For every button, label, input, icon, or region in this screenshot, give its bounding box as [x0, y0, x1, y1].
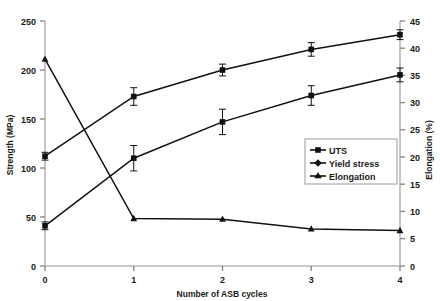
right-tick-label-25: 25	[410, 125, 420, 135]
right-tick-label-20: 20	[410, 153, 420, 163]
bottom-tick-label-4: 4	[397, 275, 402, 285]
right-axis-title: Elongation (%)	[424, 120, 434, 180]
right-tick-label-5: 5	[410, 234, 415, 244]
left-tick-label-100: 100	[21, 164, 36, 174]
legend-label-elongation: Elongation	[329, 172, 376, 182]
right-tick-label-30: 30	[410, 98, 420, 108]
right-tick-label-15: 15	[410, 180, 420, 190]
bottom-axis-title: Number of ASB cycles	[177, 289, 268, 299]
left-tick-label-200: 200	[21, 66, 36, 76]
right-tick-label-35: 35	[410, 71, 420, 81]
legend-label-yield-stress: Yield stress	[329, 159, 379, 169]
chart-container: 250 200 150 100 50 0 45 40 35 30 25 20 1…	[0, 0, 440, 301]
bottom-tick-label-2: 2	[220, 275, 225, 285]
right-tick-label-45: 45	[410, 17, 420, 27]
left-tick-label-250: 250	[21, 17, 36, 27]
left-tick-label-150: 150	[21, 115, 36, 125]
legend-label-uts: UTS	[329, 146, 347, 156]
right-tick-label-40: 40	[410, 44, 420, 54]
right-tick-label-10: 10	[410, 207, 420, 217]
bottom-tick-label-0: 0	[42, 275, 47, 285]
right-tick-label-0: 0	[410, 262, 415, 272]
chart-svg: 250 200 150 100 50 0 45 40 35 30 25 20 1…	[0, 0, 440, 301]
legend-square-icon	[315, 147, 321, 153]
chart-legend[interactable]: UTS Yield stress Elongation	[305, 139, 397, 184]
left-tick-label-50: 50	[26, 213, 36, 223]
bottom-tick-label-3: 3	[309, 275, 314, 285]
left-tick-label-0: 0	[31, 262, 36, 272]
left-axis-title: Strength (MPa)	[5, 115, 15, 176]
bottom-tick-label-1: 1	[131, 275, 136, 285]
